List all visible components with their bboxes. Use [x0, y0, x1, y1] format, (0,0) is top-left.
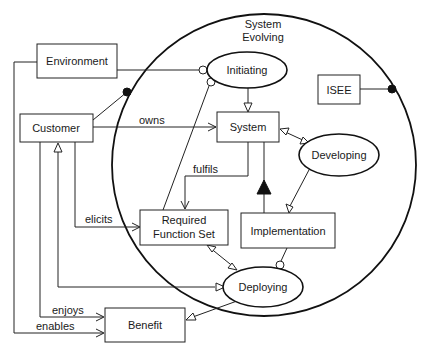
rfs-label-line1: Required — [162, 214, 207, 226]
developing-label: Developing — [311, 149, 366, 161]
fulfils-label: fulfils — [193, 163, 219, 175]
open-triangle-icon — [280, 128, 289, 135]
fulfils-link — [185, 142, 248, 209]
system-evolving-diagram: System Evolving enables enjoys elicits o… — [0, 0, 430, 357]
environment-label: Environment — [46, 55, 108, 67]
open-circle-icon — [199, 66, 207, 74]
customer-boundary-link — [93, 92, 127, 120]
initiating-process[interactable]: Initiating — [207, 52, 287, 88]
open-triangle-icon — [244, 103, 252, 112]
system-label: System — [230, 121, 267, 133]
rfs-initiating-link — [163, 86, 209, 210]
elicits-label: elicits — [85, 213, 113, 225]
customer-box[interactable]: Customer — [20, 114, 93, 142]
enjoys-label: enjoys — [52, 304, 84, 316]
open-triangle-icon — [286, 204, 293, 213]
isee-box[interactable]: ISEE — [318, 75, 360, 104]
benefit-box[interactable]: Benefit — [105, 308, 185, 342]
implementation-box[interactable]: Implementation — [241, 213, 335, 248]
customer-label: Customer — [32, 122, 80, 134]
filled-dot-icon — [123, 88, 131, 96]
filled-dot-icon — [388, 85, 396, 93]
deploying-benefit-link — [190, 301, 237, 318]
deploying-label: Deploying — [239, 281, 288, 293]
environment-box[interactable]: Environment — [37, 44, 117, 78]
open-triangle-icon — [54, 143, 62, 152]
filled-triangle-icon — [257, 180, 271, 194]
boundary-label-line1: System — [245, 18, 282, 30]
required-function-set-box[interactable]: Required Function Set — [140, 210, 228, 245]
boundary-label-line2: Evolving — [242, 31, 284, 43]
initiating-label: Initiating — [227, 64, 268, 76]
system-box[interactable]: System — [217, 112, 279, 142]
open-triangle-icon — [186, 313, 196, 320]
isee-label: ISEE — [326, 84, 351, 96]
enjoys-link — [40, 142, 103, 317]
developing-implementation-link — [290, 168, 310, 206]
deploying-process[interactable]: Deploying — [223, 267, 303, 307]
implementation-deploying-link — [281, 248, 287, 261]
rfs-label-line2: Function Set — [153, 228, 215, 240]
owns-label: owns — [139, 114, 165, 126]
developing-process[interactable]: Developing — [299, 134, 379, 176]
enables-label: enables — [36, 320, 75, 332]
implementation-label: Implementation — [250, 225, 325, 237]
benefit-label: Benefit — [128, 319, 162, 331]
